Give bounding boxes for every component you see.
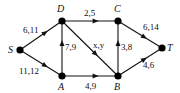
node-T: T <box>158 42 174 53</box>
node-D: D <box>56 3 66 25</box>
edge-label: 11,12 <box>19 66 39 76</box>
arrow-icon <box>41 29 49 37</box>
edge-label: 4,9 <box>85 81 97 91</box>
edge-B-T: 4,6 <box>118 48 162 76</box>
edge-label: 2,5 <box>84 8 96 18</box>
flow-network-diagram: 6,1111,122,57,9x,y4,93,86,144,6SDACBT <box>0 0 180 93</box>
node-label: T <box>167 42 174 53</box>
node-label: B <box>114 81 120 92</box>
edge-label: 3,8 <box>121 42 133 52</box>
node-dot <box>58 72 65 79</box>
edge-D-C: 2,5 <box>62 8 118 24</box>
node-label: A <box>57 81 65 92</box>
edge-A-B: 4,9 <box>62 74 118 92</box>
node-A: A <box>57 72 66 92</box>
edge-S-A: 11,12 <box>19 50 62 76</box>
node-dot <box>114 72 121 79</box>
node-dot <box>114 17 121 24</box>
edge-label: 7,9 <box>65 42 77 52</box>
edge-A-D: 7,9 <box>60 21 77 76</box>
edge-label: x,y <box>93 40 105 50</box>
arrow-icon <box>93 19 99 24</box>
node-label: C <box>114 3 121 14</box>
arrow-icon <box>60 40 65 46</box>
node-dot <box>58 17 65 24</box>
node-S: S <box>8 44 24 55</box>
arrow-icon <box>41 62 49 69</box>
edge-line <box>118 48 162 76</box>
node-B: B <box>114 72 122 92</box>
edge-label: 6,14 <box>143 22 159 32</box>
node-dot <box>16 46 23 53</box>
edge-label: 4,6 <box>143 60 155 70</box>
edge-S-D: 6,11 <box>20 21 62 50</box>
node-dot <box>158 44 165 51</box>
arrow-icon <box>141 34 149 41</box>
arrow-icon <box>93 74 99 79</box>
node-C: C <box>114 3 122 25</box>
arrow-icon <box>116 40 121 46</box>
edge-label: 6,11 <box>23 25 38 35</box>
node-label: S <box>8 44 13 55</box>
node-label: D <box>56 3 65 14</box>
